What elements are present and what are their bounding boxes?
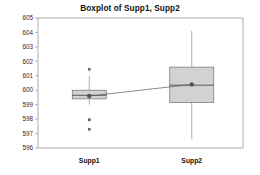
mean-marker <box>87 94 91 98</box>
x-tick-label-Supp2: Supp2 <box>181 157 202 165</box>
y-tick-label: 603 <box>22 43 33 50</box>
x-tick-label-Supp1: Supp1 <box>79 157 100 165</box>
boxplot-figure: Boxplot of Supp1, Supp2 5965975985996006… <box>0 0 260 175</box>
outlier-marker <box>88 119 90 121</box>
y-tick-label: 599 <box>22 101 33 108</box>
y-tick-label: 597 <box>22 130 33 137</box>
y-tick-label: 601 <box>22 72 33 79</box>
y-tick-label: 604 <box>22 29 33 36</box>
y-tick-label: 600 <box>22 86 33 93</box>
mean-marker <box>190 83 194 87</box>
y-tick-label: 602 <box>22 58 33 65</box>
y-tick-label: 596 <box>22 144 33 151</box>
outlier-marker <box>88 68 90 70</box>
y-axis: 596597598599600601602603604605 <box>22 14 38 151</box>
outlier-marker <box>88 128 90 130</box>
boxplot-Supp1 <box>72 68 106 130</box>
x-axis: Supp1Supp2 <box>79 157 202 165</box>
y-tick-label: 598 <box>22 115 33 122</box>
y-tick-label: 605 <box>22 14 33 21</box>
plot-area: 596597598599600601602603604605 Supp1Supp… <box>0 0 260 175</box>
